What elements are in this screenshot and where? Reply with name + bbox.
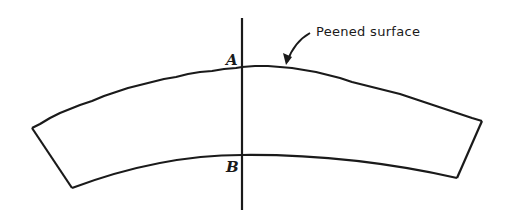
point-a-label: A (226, 51, 238, 69)
peened-beam-diagram (0, 0, 511, 224)
point-b-label: B (226, 158, 239, 176)
peened-surface-annotation: Peened surface (316, 24, 420, 39)
right-edge (457, 121, 482, 178)
bottom-surface-curve (72, 155, 457, 188)
peened-surface-curve (32, 66, 482, 128)
left-edge (32, 128, 72, 188)
